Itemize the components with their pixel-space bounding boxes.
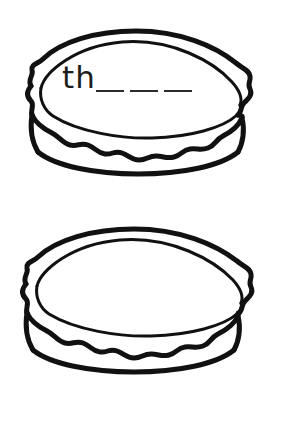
blank-slot[interactable] bbox=[130, 64, 158, 92]
pie-icon bbox=[0, 0, 282, 219]
pie-item-bottom: s bbox=[0, 219, 282, 438]
word-blank-top: th bbox=[62, 62, 192, 92]
blank-slot[interactable] bbox=[96, 64, 124, 92]
pie-icon bbox=[0, 219, 282, 438]
blank-slot[interactable] bbox=[164, 64, 192, 92]
pie-item-top: th bbox=[0, 0, 282, 219]
word-prefix-top: th bbox=[62, 62, 96, 92]
worksheet-page: th s bbox=[0, 0, 282, 438]
